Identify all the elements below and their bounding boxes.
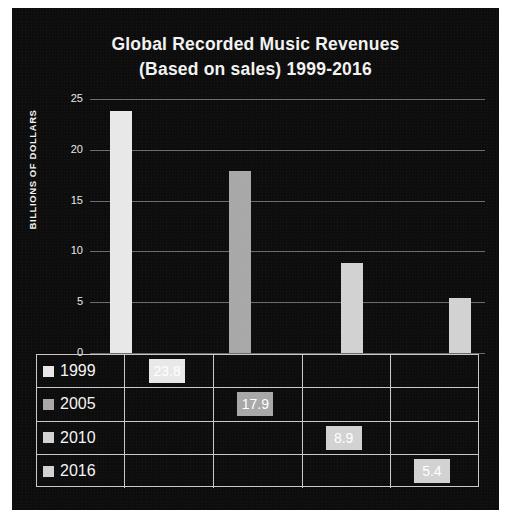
y-axis-tick-label: 5 xyxy=(43,296,83,307)
y-axis-tick-label: 15 xyxy=(43,195,83,206)
bar xyxy=(449,298,471,353)
data-value-label: 17.9 xyxy=(237,392,273,416)
table-column-divider xyxy=(213,355,214,387)
table-column-divider xyxy=(302,422,303,454)
gridline xyxy=(90,302,485,303)
legend-entry: 2010 xyxy=(37,422,125,454)
legend-swatch-icon xyxy=(43,366,54,377)
plot-area: 0510152025 xyxy=(90,99,485,353)
legend-year-label: 2005 xyxy=(60,396,96,412)
table-column-divider xyxy=(390,455,391,488)
table-column-divider xyxy=(390,422,391,454)
y-axis-label: BILLIONS OF DOLLARS xyxy=(27,105,38,235)
table-row: 20165.4 xyxy=(37,455,478,488)
legend-year-label: 2016 xyxy=(60,463,96,479)
legend-swatch-icon xyxy=(43,399,54,410)
legend-entry: 2005 xyxy=(37,388,125,420)
y-axis-tick-label: 25 xyxy=(43,93,83,104)
table-row: 20108.9 xyxy=(37,422,478,455)
table-column-divider xyxy=(213,422,214,454)
data-value-label: 8.9 xyxy=(326,426,362,450)
chart-title: Global Recorded Music Revenues (Based on… xyxy=(12,32,499,82)
table-column-divider xyxy=(302,388,303,420)
table-column-divider xyxy=(390,355,391,387)
bar xyxy=(341,263,363,353)
chart-image: Global Recorded Music Revenues (Based on… xyxy=(0,0,509,518)
chart-canvas: Global Recorded Music Revenues (Based on… xyxy=(12,8,499,510)
table-column-divider xyxy=(302,355,303,387)
table-row: 199923.8 xyxy=(37,355,478,388)
bar xyxy=(229,171,251,353)
data-value-label: 23.8 xyxy=(149,359,185,383)
data-table: 199923.8200517.920108.920165.4 xyxy=(36,354,479,487)
chart-title-line-2: (Based on sales) 1999-2016 xyxy=(12,57,499,82)
bar xyxy=(110,111,132,353)
y-axis-tick-label: 10 xyxy=(43,245,83,256)
table-row: 200517.9 xyxy=(37,388,478,421)
table-column-divider xyxy=(213,388,214,420)
legend-swatch-icon xyxy=(43,466,54,477)
legend-year-label: 2010 xyxy=(60,430,96,446)
legend-year-label: 1999 xyxy=(60,363,96,379)
legend-entry: 1999 xyxy=(37,355,125,387)
gridline xyxy=(90,251,485,252)
data-value-label: 5.4 xyxy=(414,459,450,483)
gridline xyxy=(90,99,485,100)
gridline xyxy=(90,150,485,151)
table-column-divider xyxy=(390,388,391,420)
table-column-divider xyxy=(213,455,214,488)
y-axis-tick-label: 20 xyxy=(43,144,83,155)
table-column-divider xyxy=(302,455,303,488)
gridline xyxy=(90,201,485,202)
legend-swatch-icon xyxy=(43,432,54,443)
chart-title-line-1: Global Recorded Music Revenues xyxy=(12,32,499,57)
legend-entry: 2016 xyxy=(37,455,125,488)
